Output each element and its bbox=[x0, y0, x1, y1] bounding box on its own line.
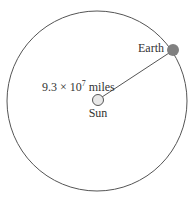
distance-label: 9.3 × 107 miles bbox=[42, 79, 115, 94]
sun-icon bbox=[93, 95, 104, 106]
sun-label: Sun bbox=[89, 106, 108, 120]
distance-mantissa: 9.3 × 10 bbox=[42, 80, 82, 94]
earth-label: Earth bbox=[138, 41, 164, 55]
earth-icon bbox=[167, 44, 179, 56]
distance-unit: miles bbox=[86, 80, 115, 94]
orbit-diagram: Earth Sun 9.3 × 107 miles bbox=[0, 0, 196, 197]
